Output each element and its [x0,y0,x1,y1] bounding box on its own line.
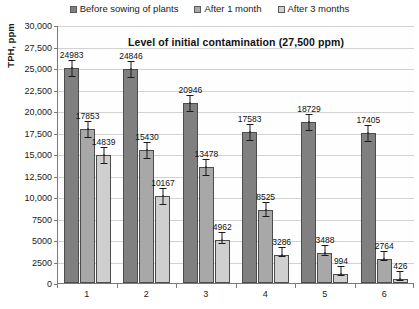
x-axis-tick-mark [236,284,237,288]
y-axis-tick-label: 10,000 [24,193,57,203]
bar-value-label: 17853 [76,111,100,121]
bar[interactable]: 3488 [317,253,332,283]
bar[interactable]: 17853 [80,129,95,283]
error-bar-lower [162,195,163,205]
bar-group: 174052764426 [355,26,414,283]
bar[interactable]: 994 [333,274,348,283]
y-axis-tick-label: 20,000 [24,107,57,117]
bar-value-label: 3488 [316,235,335,245]
error-bar-lower [87,128,88,138]
y-axis-tick-label: 12,500 [24,172,57,182]
x-axis-tick-mark [355,284,356,288]
error-bar-lower [265,209,266,218]
error-bar-lower [281,254,282,257]
error-bar-lower [190,102,191,112]
y-axis-tick-mark [54,48,57,49]
y-axis-tick-mark [54,155,57,156]
bar[interactable]: 4962 [215,240,230,283]
x-axis-tick-mark-end [413,284,414,288]
bar[interactable]: 13478 [199,167,214,283]
bar-value-label: 994 [334,256,348,266]
x-axis-tick: 2 [117,284,177,304]
bar-value-label: 8525 [256,192,275,202]
bar[interactable]: 17583 [242,132,257,283]
y-axis-tick-mark [54,220,57,221]
bar-value-label: 15430 [135,132,159,142]
error-bar-lower [206,166,207,176]
legend-entry[interactable]: After 3 months [278,4,350,14]
bar[interactable]: 17405 [361,133,376,283]
bar[interactable]: 2764 [377,259,392,283]
x-axis-tick-mark [117,284,118,288]
y-axis-tick-label: 22,500 [24,86,57,96]
legend-label: After 3 months [288,4,350,14]
y-axis-tick-mark [54,241,57,242]
x-axis-tick-label: 4 [263,289,268,299]
legend-entry[interactable]: After 1 month [194,4,261,14]
error-bar-lower [308,121,309,131]
bar-group: 249831785314839 [58,26,117,283]
x-axis-tick-label: 3 [203,289,208,299]
y-axis-title: TPH, ppm [5,16,16,76]
y-axis-tick-label: 30,000 [24,21,57,31]
x-axis-tick: 4 [236,284,296,304]
error-bar-lower [340,273,341,276]
y-axis-tick-label: 27,500 [24,43,57,53]
y-axis-tick-mark [54,177,57,178]
bar-value-label: 3286 [272,237,291,247]
error-bar-lower [146,149,147,159]
bar[interactable]: 18729 [301,122,316,283]
x-axis-tick: 3 [176,284,236,304]
bar-groups: 2498317853148392484615430101672094613478… [58,26,414,283]
bar[interactable]: 24846 [123,69,138,283]
bar-group: 1758385253286 [236,26,295,283]
x-axis-tick: 1 [57,284,117,304]
bar-value-label: 10167 [151,178,175,188]
bar-group: 248461543010167 [117,26,176,283]
legend-swatch-icon [194,6,201,13]
x-axis-tick-label: 2 [144,289,149,299]
legend-swatch-icon [70,6,77,13]
x-axis-tick-mark [295,284,296,288]
y-axis-tick-mark [54,263,57,264]
x-axis-tick: 6 [355,284,415,304]
bar[interactable]: 14839 [96,155,111,283]
y-axis-tick-label: 25,000 [24,64,57,74]
x-axis-ticks: 123456 [57,284,414,304]
error-bar-lower [71,67,72,77]
bar-value-label: 4962 [213,222,232,232]
y-axis-tick-mark [54,198,57,199]
y-axis-tick-label: 17,500 [24,129,57,139]
error-bar-lower [368,132,369,142]
bar[interactable]: 8525 [258,210,273,283]
y-axis-tick-label: 15,000 [24,150,57,160]
bar[interactable]: 24983 [64,68,79,283]
x-axis-tick: 5 [295,284,355,304]
bar[interactable]: 10167 [155,196,170,283]
bar-value-label: 2764 [375,241,394,251]
x-axis-tick-mark [57,284,58,288]
plot-area: Level of initial contamination (27,500 p… [57,26,414,284]
legend-swatch-icon [278,6,285,13]
bar-value-label: 13478 [194,149,218,159]
bar[interactable]: 15430 [139,150,154,283]
legend-entry[interactable]: Before sowing of plants [70,4,179,14]
bar-value-label: 17405 [356,115,380,125]
y-axis-tick-mark [54,91,57,92]
x-axis-tick-label: 6 [382,289,387,299]
error-bar-lower [103,154,104,164]
bar[interactable]: 426 [393,279,408,283]
error-bar-lower [249,131,250,141]
bar-value-label: 17583 [238,114,262,124]
x-axis-tick-label: 1 [84,289,89,299]
bar-value-label: 18729 [297,104,321,114]
chart-legend: Before sowing of plantsAfter 1 monthAfte… [0,2,419,16]
error-bar-lower [384,258,385,261]
x-axis-tick-mark [176,284,177,288]
bar-value-label: 24846 [119,51,143,61]
bar[interactable]: 20946 [183,103,198,283]
bar-chart: Before sowing of plantsAfter 1 monthAfte… [0,0,419,309]
bar[interactable]: 3286 [274,255,289,283]
bar-value-label: 426 [393,261,407,271]
error-bar-lower [130,68,131,78]
